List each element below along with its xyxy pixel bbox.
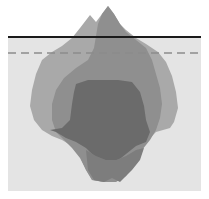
iceberg-diagram [0, 0, 209, 199]
